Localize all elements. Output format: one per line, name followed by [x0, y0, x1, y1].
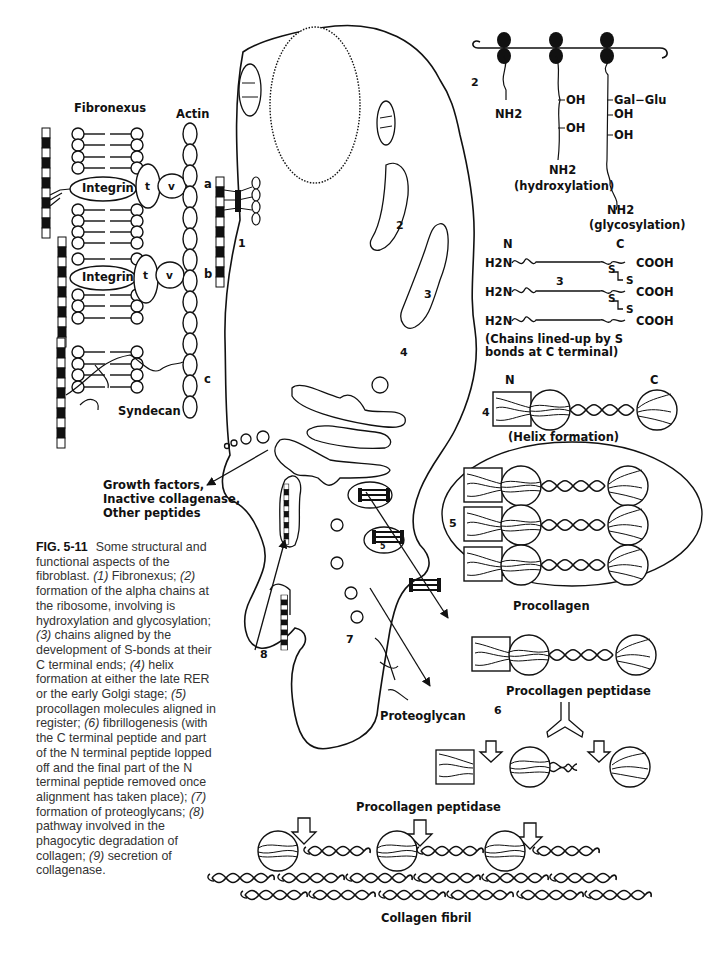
marker-4: 4 — [400, 346, 408, 359]
marker-2: 2 — [396, 219, 404, 232]
marker-8: 8 — [260, 648, 268, 661]
chain2-nh2: NH2 — [549, 164, 576, 177]
actin-label: Actin — [176, 108, 209, 121]
c-terminal-label: C — [616, 238, 624, 251]
mitochondrion — [377, 101, 395, 145]
golgi-cisterna — [307, 426, 391, 449]
collagen-fibril — [208, 874, 651, 900]
extracellular-matrix-bar-a — [42, 128, 50, 238]
golgi-cisterna — [275, 439, 390, 485]
extracellular-matrix-bar-b — [58, 237, 66, 347]
step-6-marker: 6 — [494, 704, 502, 717]
golgi-cisterna — [292, 385, 405, 427]
secretion-label-line-3: Other peptides — [103, 507, 201, 520]
site-label-a: a — [204, 178, 212, 191]
secretion-label-line-2: Inactive collagenase, — [103, 493, 240, 506]
peptidase-enzyme-icon — [547, 702, 583, 737]
focal-adhesion-bar — [216, 177, 224, 287]
step-4-marker: 4 — [482, 406, 490, 419]
chain-1-cooh: COOH — [636, 257, 674, 270]
marker-7: 7 — [346, 633, 354, 646]
helix-c-label: C — [650, 374, 658, 387]
secretion-arrow — [207, 450, 268, 485]
s-bond-2b: S — [626, 303, 634, 315]
chain3-oh-1: OH — [614, 108, 633, 121]
secretory-vesicles — [225, 431, 364, 623]
step-3-marker: 3 — [556, 275, 564, 288]
extracellular-matrix-bar-c — [57, 338, 65, 448]
actin-filament — [183, 123, 197, 418]
s-bond-1b: S — [626, 274, 634, 286]
proteoglycan-label: Proteoglycan — [380, 710, 466, 723]
vinculin-label-b: v — [166, 269, 173, 281]
chain2-oh-1: OH — [566, 94, 585, 107]
syndecan-label: Syndecan — [118, 405, 181, 418]
hydroxylation-caption: (hydroxylation) — [514, 180, 614, 193]
helix-n-label: N — [505, 374, 515, 387]
figure-caption: FIG. 5-11Some structural and functional … — [36, 540, 216, 878]
s-bond-2a: S — [608, 292, 616, 304]
procollagen-peptidase-label-1: Procollagen peptidase — [506, 685, 651, 698]
site-label-c: c — [204, 373, 211, 386]
figure-id: FIG. 5-11 — [36, 540, 88, 554]
glycosylation-caption: (glycosylation) — [589, 219, 685, 232]
helix-caption: (Helix formation) — [508, 431, 619, 444]
cleavage-arrow-icon — [480, 741, 502, 762]
step-2-marker: 2 — [471, 76, 479, 89]
chain3-nh2: NH2 — [607, 204, 634, 217]
procollagen-peptidase-label-2: Procollagen peptidase — [356, 801, 501, 814]
fibronexus-title: Fibronexus — [74, 102, 146, 115]
vinculin-label-a: v — [168, 180, 175, 192]
chain1-nh2: NH2 — [495, 108, 522, 121]
secretion-label-line-1: Growth factors, — [103, 479, 204, 492]
chain-2-h2n: H2N — [485, 286, 512, 299]
marker-5: 5 — [380, 542, 386, 551]
rer-cisterna-3-4 — [401, 224, 448, 329]
integrin-label-a: Integrin — [82, 182, 134, 195]
step-5-marker: 5 — [449, 517, 457, 530]
rer-cisterna-2 — [370, 163, 408, 250]
mitochondrion — [239, 64, 261, 116]
marker-3: 3 — [424, 288, 432, 301]
helix-molecule — [493, 390, 677, 430]
fibronexus-panel — [42, 123, 197, 448]
site-label-b: b — [204, 268, 212, 281]
marker-1: 1 — [238, 237, 246, 250]
n-terminal-label: N — [503, 238, 513, 251]
exocytosis-arrow — [366, 492, 448, 618]
integrin-label-b: Integrin — [82, 271, 134, 284]
phagocytosis-arrow — [255, 540, 285, 650]
chain-1-h2n: H2N — [485, 257, 512, 270]
phagosome — [280, 476, 301, 547]
s-bond-1a: S — [608, 263, 616, 275]
cleavage-arrow-icon — [292, 818, 316, 844]
procollagen-molecule — [472, 635, 656, 675]
alignment-caption: (Chains lined-up by S bonds at C termina… — [485, 333, 665, 359]
chain3-gal-glu: Gal−Glu — [614, 94, 666, 107]
chain-2-cooh: COOH — [636, 286, 674, 299]
nucleus — [270, 27, 360, 183]
proteoglycan-arrow — [370, 588, 430, 686]
chain3-oh-2: OH — [614, 129, 633, 142]
talin-label-a: t — [145, 180, 150, 192]
talin-label-b: t — [143, 269, 148, 281]
cleavage-arrow-icon — [588, 741, 610, 762]
chain2-oh-2: OH — [566, 122, 585, 135]
collagen-fibril-label: Collagen fibril — [381, 912, 472, 925]
chain-3-cooh: COOH — [636, 315, 674, 328]
procollagen-label: Procollagen — [513, 600, 590, 613]
chain-3-h2n: H2N — [485, 315, 512, 328]
